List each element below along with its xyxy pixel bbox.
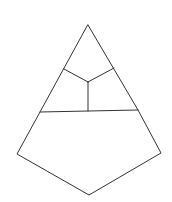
outer-outline: [17, 25, 161, 195]
inner-edges: [40, 68, 138, 112]
edge-upper_left-center: [64, 69, 88, 82]
edge-upper_right-center: [88, 68, 114, 82]
diagram-canvas: [0, 0, 172, 202]
edge-mid_left-mid_right: [40, 110, 138, 112]
